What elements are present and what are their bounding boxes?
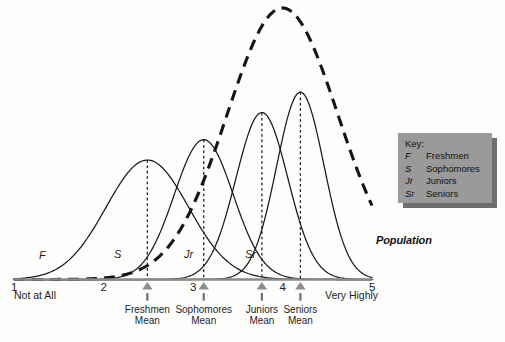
legend-name: Seniors — [426, 188, 458, 199]
legend-name: Juniors — [426, 175, 457, 186]
legend-abbr: S — [405, 163, 426, 174]
mean-dropline-layer — [147, 92, 300, 279]
mean-label-line2: Mean — [125, 315, 170, 326]
legend-name: Sophomores — [426, 163, 480, 174]
mean-label-line2: Mean — [175, 315, 232, 326]
legend-item-seniors: SrSeniors — [405, 188, 492, 201]
curve-label-juniors: Jr — [184, 248, 193, 260]
mean-label-line1: Juniors — [246, 304, 278, 315]
legend-title: Key: — [405, 138, 492, 149]
legend-item-juniors: JrJuniors — [405, 175, 492, 188]
legend-name: Freshmen — [426, 150, 469, 161]
mean-marker-sophomores — [199, 282, 209, 290]
curve-label-seniors: Sr — [245, 248, 256, 260]
curve-label-freshmen: F — [39, 249, 46, 261]
legend-abbr: F — [405, 150, 426, 161]
mean-label-line1: Sophomores — [175, 304, 232, 315]
legend-abbr: Sr — [405, 188, 426, 199]
axis-anchor-high: Very Highly — [325, 290, 378, 302]
mean-label-freshmen: FreshmenMean — [125, 304, 170, 326]
curve-population — [14, 8, 372, 280]
legend-box: Key: FFreshmenSSophomoresJrJuniorsSrSeni… — [398, 133, 492, 203]
axis-tick-3: 3 — [190, 281, 196, 294]
legend-abbr: Jr — [405, 175, 426, 186]
mean-label-sophomores: SophomoresMean — [175, 304, 232, 326]
legend-item-freshmen: FFreshmen — [405, 150, 492, 163]
mean-label-line2: Mean — [283, 315, 317, 326]
axis-tick-4: 4 — [280, 281, 286, 294]
mean-marker-seniors — [295, 282, 305, 290]
curves-layer — [14, 8, 372, 280]
legend-rows: FFreshmenSSophomoresJrJuniorsSrSeniors — [405, 150, 492, 200]
mean-marker-freshmen — [142, 282, 152, 290]
axis-tick-2: 2 — [101, 281, 107, 294]
axis-anchor-low: Not at All — [14, 290, 56, 302]
mean-label-line1: Freshmen — [125, 304, 170, 315]
mean-label-juniors: JuniorsMean — [246, 304, 278, 326]
mean-label-line1: Seniors — [283, 304, 317, 315]
mean-label-seniors: SeniorsMean — [283, 304, 317, 326]
chart-canvas: 12345 Not at All Very Highly F S Jr Sr P… — [0, 0, 505, 342]
legend-item-sophomores: SSophomores — [405, 163, 492, 176]
curve-label-sophomores: S — [114, 248, 121, 260]
mean-marker-juniors — [257, 282, 267, 290]
curve-label-population: Population — [376, 234, 432, 246]
curve-freshmen — [14, 160, 372, 279]
mean-label-line2: Mean — [246, 315, 278, 326]
